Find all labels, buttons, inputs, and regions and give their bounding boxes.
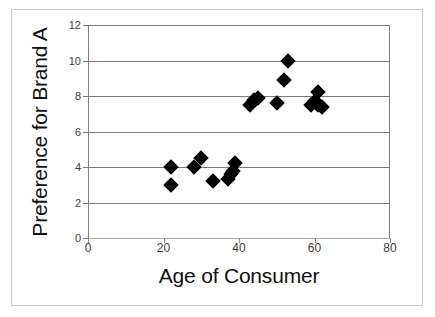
y-tick-label: 12 <box>69 19 81 31</box>
y-tick-label: 2 <box>75 197 81 209</box>
x-tick-label: 80 <box>383 241 396 255</box>
x-axis-title: Age of Consumer <box>88 264 390 288</box>
y-tick-label: 4 <box>75 161 81 173</box>
gridline <box>88 61 390 62</box>
x-tick-label: 40 <box>232 241 245 255</box>
y-axis-title: Preference for Brand A <box>28 12 52 252</box>
y-tick-mark <box>83 167 88 168</box>
scatter-plot-figure: Preference for Brand A Age of Consumer 0… <box>0 0 435 317</box>
y-tick-mark <box>83 25 88 26</box>
y-tick-mark <box>83 96 88 97</box>
y-tick-label: 10 <box>69 55 81 67</box>
y-tick-label: 0 <box>75 232 81 244</box>
plot-area: 024681012 020406080 <box>88 25 390 238</box>
y-tick-label: 8 <box>75 90 81 102</box>
gridline <box>88 203 390 204</box>
x-tick-label: 0 <box>85 241 92 255</box>
y-tick-mark <box>83 132 88 133</box>
x-tick-label: 20 <box>157 241 170 255</box>
x-tick-label: 60 <box>308 241 321 255</box>
gridline <box>88 167 390 168</box>
gridline <box>88 25 390 26</box>
y-tick-mark <box>83 61 88 62</box>
y-tick-mark <box>83 203 88 204</box>
y-tick-label: 6 <box>75 126 81 138</box>
gridline <box>88 132 390 133</box>
gridline <box>88 96 390 97</box>
